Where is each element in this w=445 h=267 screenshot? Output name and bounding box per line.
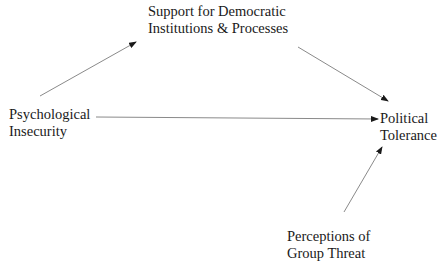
node-label-line: Group Threat — [287, 245, 370, 262]
node-label-line: Institutions & Processes — [148, 20, 288, 37]
node-label-line: Support for Democratic — [148, 3, 288, 20]
edge-support-to-tolerance — [298, 47, 388, 101]
node-label-line: Perceptions of — [287, 228, 370, 245]
node-support-democratic-institutions: Support for Democratic Institutions & Pr… — [148, 3, 288, 37]
node-label-line: Political — [380, 110, 437, 127]
node-political-tolerance: Political Tolerance — [380, 110, 437, 144]
node-label-line: Insecurity — [9, 123, 90, 140]
node-label-line: Psychological — [9, 106, 90, 123]
node-perceptions-group-threat: Perceptions of Group Threat — [287, 228, 370, 262]
edge-insecurity-to-tolerance — [96, 117, 378, 119]
node-psychological-insecurity: Psychological Insecurity — [9, 106, 90, 140]
edge-threat-to-tolerance — [344, 147, 382, 212]
node-label-line: Tolerance — [380, 127, 437, 144]
edge-insecurity-to-support — [40, 42, 136, 96]
